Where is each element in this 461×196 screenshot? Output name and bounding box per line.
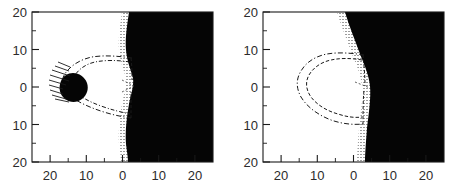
panel-left-y-tick-label-3: 10 [13, 118, 27, 133]
panel-right-x-tick-label-0: 20 [274, 168, 288, 183]
panel-left-data-area [32, 12, 213, 162]
panel-right-y-tick-label-0: 20 [244, 5, 258, 20]
panel-left: 20 10 0 10 20 20 10 0 10 20 [13, 5, 213, 183]
panel-left-y-tick-label-0: 20 [13, 5, 27, 20]
panel-right-x-tick-label-1: 10 [310, 168, 324, 183]
panel-left-x-tick-label-0: 20 [43, 168, 57, 183]
panel-left-y-tick-label-4: 20 [13, 155, 27, 170]
figure-container: 20 10 0 10 20 20 10 0 10 20 [0, 0, 461, 196]
figure-svg: 20 10 0 10 20 20 10 0 10 20 [0, 0, 461, 196]
panel-left-black-region [126, 12, 213, 162]
panel-right-y-tick-label-4: 20 [244, 155, 258, 170]
panel-right-data-area [263, 12, 444, 162]
panel-left-y-tick-label-1: 10 [13, 43, 27, 58]
panel-right-x-tick-label-2: 0 [350, 168, 357, 183]
panel-right-x-tick-label-4: 20 [419, 168, 433, 183]
panel-right-x-tick-label-3: 10 [382, 168, 396, 183]
panel-right-y-tick-label-3: 10 [244, 118, 258, 133]
panel-right-y-tick-label-2: 0 [251, 80, 258, 95]
panel-right-y-tick-label-1: 10 [244, 43, 258, 58]
panel-left-x-tick-label-4: 20 [188, 168, 202, 183]
panel-left-x-tick-label-3: 10 [151, 168, 165, 183]
panel-left-y-tick-label-2: 0 [20, 80, 27, 95]
panel-right: 20 10 0 10 20 20 10 0 10 20 [244, 5, 444, 183]
panel-left-x-tick-label-2: 0 [119, 168, 126, 183]
panel-left-x-tick-label-1: 10 [79, 168, 93, 183]
